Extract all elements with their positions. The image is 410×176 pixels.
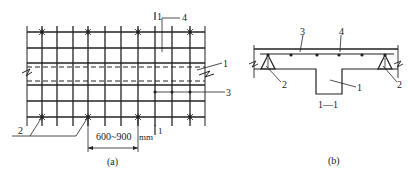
callout-a-2: 2: [18, 125, 23, 136]
callout-b-3: 3: [300, 26, 305, 37]
section-title: 1—1: [318, 99, 338, 110]
dim-arrow-left-icon: [88, 146, 93, 150]
formwork-diagram: 1 4 1 3 2 600~900 mm 1 (a): [0, 0, 410, 176]
rebar-dot: [383, 53, 386, 56]
rebar-dot: [266, 53, 269, 56]
beam-outline: [254, 69, 398, 94]
callout-a-3: 3: [226, 87, 231, 98]
panel-a-caption: (a): [107, 156, 118, 168]
unit-label: mm: [139, 132, 153, 142]
support-markers: [39, 29, 193, 121]
leader-2-a: [30, 117, 42, 136]
rebar-dot: [315, 53, 318, 56]
dim-arrow-right-icon: [133, 146, 138, 150]
callout-a-1: 1: [223, 58, 228, 69]
callout-a-1-section: 1: [157, 11, 162, 22]
rebar-dot: [337, 53, 340, 56]
callout-b-4: 4: [339, 26, 344, 37]
break-mark-b-left: [249, 61, 258, 67]
panel-b-caption: (b): [328, 155, 340, 167]
section-mark-label: 1: [158, 126, 163, 136]
callout-b-2-left: 2: [282, 79, 287, 90]
rebar-dot: [289, 53, 292, 56]
callout-b-2-right: 2: [397, 79, 402, 90]
panel-b-section-view: [249, 35, 403, 94]
break-mark-b-right: [394, 61, 403, 67]
callout-a-4: 4: [182, 12, 187, 23]
panel-a-plan-view: [22, 26, 214, 126]
dimension-label: 600~900: [96, 131, 131, 142]
break-mark-right: [199, 71, 214, 77]
callout-b-1: 1: [357, 82, 362, 93]
leader-b-1: [330, 80, 356, 87]
rebar-dot: [360, 53, 363, 56]
leader-2-b: [76, 117, 88, 136]
leader-1: [197, 63, 222, 70]
